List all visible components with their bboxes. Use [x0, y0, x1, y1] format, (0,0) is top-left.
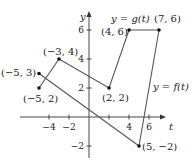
function-graph: −4 −2 4 6 6 4 2 −2 t y (−5, 3) (−5, 2) (… [0, 0, 194, 164]
curve-g [39, 30, 159, 88]
point-label: (2, 2) [102, 92, 129, 103]
point-label: (−5, 3) [1, 67, 36, 78]
y-tick-label: 2 [78, 83, 84, 93]
point-dot-icon [157, 28, 161, 32]
y-axis-arrow-icon [87, 11, 92, 17]
point-dot-icon [37, 72, 41, 76]
point-dot-icon [107, 86, 111, 90]
point-label: (−3, 4) [43, 46, 78, 57]
point-label: (−5, 2) [23, 93, 58, 104]
point-label: (5, −2) [142, 141, 177, 152]
point-dot-icon [37, 86, 41, 90]
t-tick-label: 6 [146, 122, 152, 132]
t-tick-label: −2 [62, 122, 75, 132]
y-axis-label: y [79, 11, 86, 22]
t-tick-label: −4 [42, 122, 56, 132]
point-label: (7, 6) [154, 13, 181, 24]
t-axis-label: t [169, 121, 174, 132]
point-dot-icon [57, 57, 61, 61]
y-tick-label: −2 [71, 141, 84, 151]
t-tick-label: 4 [126, 122, 132, 132]
axes: −4 −2 4 6 6 4 2 −2 t y [20, 11, 174, 158]
t-axis-arrow-icon [160, 115, 166, 120]
y-tick-label: 6 [78, 25, 84, 35]
curve-label-f: y = f(t) [152, 81, 189, 92]
y-tick-label: 4 [78, 54, 84, 64]
point-dot-icon [137, 144, 141, 148]
point-label: (4, 6) [101, 26, 128, 37]
curve-label-g: y = g(t) [110, 13, 150, 24]
